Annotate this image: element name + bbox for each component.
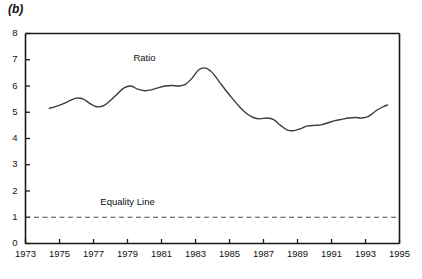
annotation-equality-line: Equality Line bbox=[100, 196, 154, 207]
y-axis-tick-label: 0 bbox=[0, 237, 18, 248]
y-axis-tick-label: 5 bbox=[0, 106, 18, 117]
y-axis-tick-label: 6 bbox=[0, 80, 18, 91]
y-axis-tick-label: 3 bbox=[0, 158, 18, 169]
panel-label: (b) bbox=[8, 2, 23, 16]
x-axis-tick-label: 1991 bbox=[316, 248, 348, 259]
x-axis-tick-label: 1993 bbox=[350, 248, 382, 259]
x-axis-tick-label: 1995 bbox=[384, 248, 416, 259]
x-axis-tick-label: 1989 bbox=[282, 248, 314, 259]
y-axis-tick-label: 7 bbox=[0, 53, 18, 64]
x-axis-tick-label: 1985 bbox=[214, 248, 246, 259]
figure-panel: (b) 197319751977197919811983198519871989… bbox=[0, 0, 422, 279]
y-axis-tick-label: 2 bbox=[0, 185, 18, 196]
x-axis-tick-label: 1979 bbox=[112, 248, 144, 259]
y-axis-tick-label: 8 bbox=[0, 27, 18, 38]
y-axis-tick-label: 4 bbox=[0, 132, 18, 143]
x-axis-tick-label: 1981 bbox=[146, 248, 178, 259]
annotation-ratio: Ratio bbox=[133, 52, 155, 63]
y-axis-tick-label: 1 bbox=[0, 211, 18, 222]
plot-frame bbox=[26, 34, 400, 244]
x-axis-tick-label: 1973 bbox=[10, 248, 42, 259]
line-chart-plot bbox=[0, 0, 422, 279]
x-axis-tick-label: 1977 bbox=[78, 248, 110, 259]
x-axis-tick-label: 1983 bbox=[180, 248, 212, 259]
x-axis-tick-label: 1987 bbox=[248, 248, 280, 259]
x-axis-tick-label: 1975 bbox=[44, 248, 76, 259]
ratio-line-series bbox=[49, 68, 387, 131]
